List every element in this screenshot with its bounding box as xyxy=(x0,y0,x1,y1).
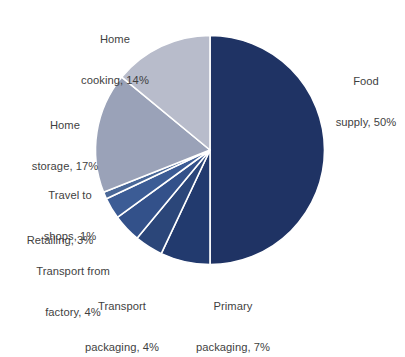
slice-label-primary-packaging: Primary packaging, 7% xyxy=(172,273,294,357)
slice-label-transport-packaging: Transport packaging, 4% xyxy=(62,273,182,357)
slice-label-home-cooking-line1: Home xyxy=(55,33,175,47)
pie-slice-food-supply[interactable]: Food supply, 50% xyxy=(210,36,325,265)
slice-label-home-storage-line1: Home xyxy=(16,119,114,133)
slice-label-primary-packaging-line1: Primary xyxy=(172,300,294,314)
slice-label-transport-packaging-line2: packaging, 4% xyxy=(62,341,182,355)
slice-label-food-supply-line2: supply, 50% xyxy=(330,116,402,130)
slice-label-food-supply: Food supply, 50% xyxy=(330,48,402,157)
slice-label-home-cooking-line2: cooking, 14% xyxy=(55,74,175,88)
slice-label-travel-to-shops-line1: Travel to xyxy=(22,189,118,203)
slice-label-primary-packaging-line2: packaging, 7% xyxy=(172,341,294,355)
slice-label-transport-packaging-line1: Transport xyxy=(62,300,182,314)
slice-label-food-supply-line1: Food xyxy=(330,75,402,89)
